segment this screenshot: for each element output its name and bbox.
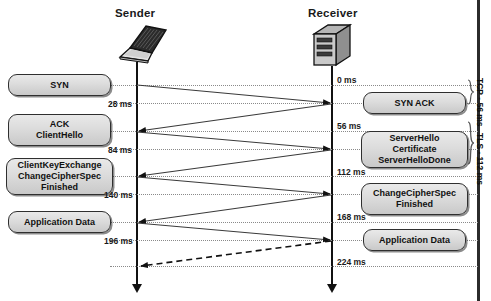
message-line: Certificate	[392, 144, 436, 155]
message-line: Finished	[396, 199, 433, 210]
message-line: ServerHello	[389, 133, 439, 144]
message-line: SYN ACK	[394, 98, 434, 109]
bracket-label-tls: TLS - 112 ms	[475, 133, 485, 185]
message-line: ClientHello	[36, 130, 83, 141]
message-line: Application Data	[24, 217, 95, 228]
time-label-right: 56 ms	[337, 121, 361, 131]
message-box-left[interactable]: SYN	[8, 74, 111, 96]
message-box-right[interactable]: Application Data	[363, 229, 466, 251]
time-label-right: 168 ms	[337, 212, 366, 222]
message-line: SYN	[50, 80, 69, 91]
time-label-right: 0 ms	[337, 75, 356, 85]
sequence-diagram: Sender Receiver	[0, 0, 491, 301]
message-box-right[interactable]: ServerHello Certificate ServerHelloDone	[361, 131, 468, 168]
message-line: ChangeCipherSpec	[18, 171, 101, 182]
time-label-left: 196 ms	[104, 236, 133, 246]
message-box-right[interactable]: SYN ACK	[363, 92, 466, 114]
message-line: ChangeCipherSpec	[373, 188, 456, 199]
time-label-right: 224 ms	[337, 257, 366, 267]
message-line: ACK	[50, 119, 70, 130]
message-line: ServerHelloDone	[378, 155, 451, 166]
message-box-left[interactable]: ClientKeyExchange ChangeCipherSpec Finis…	[6, 158, 113, 195]
message-line: Finished	[41, 182, 78, 193]
time-label-left: 28 ms	[108, 99, 132, 109]
bracket-label-tcp: TCP - 56 ms	[475, 78, 485, 127]
message-box-right[interactable]: ChangeCipherSpec Finished	[361, 183, 468, 215]
time-label-left: 84 ms	[108, 145, 132, 155]
time-label-left: 140 ms	[104, 190, 133, 200]
message-line: Application Data	[379, 235, 450, 246]
time-label-right: 112 ms	[337, 167, 365, 177]
message-box-left[interactable]: ACK ClientHello	[8, 114, 111, 146]
message-line: ClientKeyExchange	[17, 160, 101, 171]
message-box-left[interactable]: Application Data	[8, 211, 111, 233]
